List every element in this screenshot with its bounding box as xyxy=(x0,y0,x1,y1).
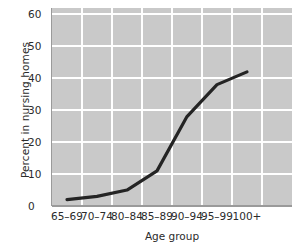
x-axis-spine xyxy=(52,205,292,207)
y-tick-label: 10 xyxy=(28,168,50,180)
y-tick-label: 40 xyxy=(28,72,50,84)
y-tick-label: 60 xyxy=(28,8,50,20)
x-axis-tick-labels: 65–6970–7480–8485–8990–9495–99100+ xyxy=(0,210,302,226)
plot-area xyxy=(52,8,292,206)
x-axis-title: Age group xyxy=(52,230,292,242)
x-tick-label: 100+ xyxy=(224,210,270,222)
y-tick-label: 50 xyxy=(28,40,50,52)
series-line xyxy=(67,72,247,200)
nursing-home-line-chart: Percent in nursing homes 60 50 40 30 20 … xyxy=(0,0,302,252)
series-line-layer xyxy=(52,8,292,206)
y-tick-label: 30 xyxy=(28,104,50,116)
y-axis-spine xyxy=(51,8,52,206)
y-tick-label: 20 xyxy=(28,136,50,148)
